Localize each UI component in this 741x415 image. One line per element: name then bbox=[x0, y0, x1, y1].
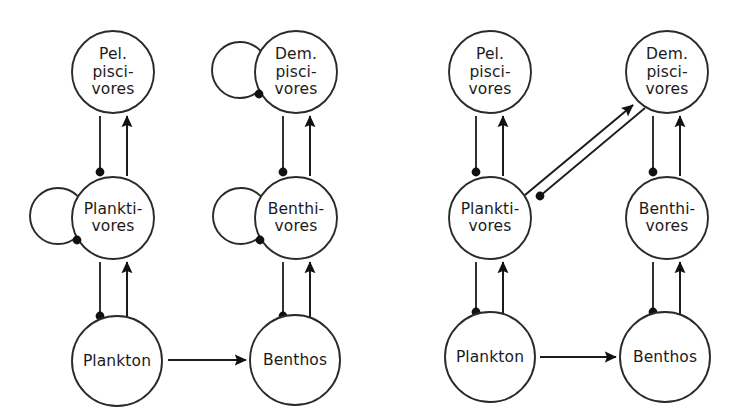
edge-control-dot bbox=[279, 168, 288, 177]
node-label-pelagic-piscivores: vores bbox=[469, 80, 512, 98]
edge-control-dot bbox=[472, 168, 481, 177]
node-label-plankton: Plankton bbox=[456, 348, 524, 366]
edge-dem-piscivores-to-benthivores-control bbox=[279, 116, 288, 176]
node-label-benthivores: Benthi- bbox=[639, 200, 696, 218]
node-planktivores[interactable]: Plankti-vores bbox=[72, 177, 154, 259]
edge-control-line bbox=[540, 108, 645, 196]
edge-pel-piscivores-to-planktivores-control bbox=[472, 116, 481, 176]
node-label-planktivores: Plankti- bbox=[461, 200, 520, 218]
node-label-benthivores: vores bbox=[646, 217, 689, 235]
node-pelagic-piscivores[interactable]: Pel.pisci-vores bbox=[72, 31, 154, 113]
node-label-demersal-piscivores: pisci- bbox=[646, 63, 687, 81]
node-label-pelagic-piscivores: Pel. bbox=[476, 45, 504, 63]
node-label-demersal-piscivores: vores bbox=[275, 80, 318, 98]
node-label-plankton: Plankton bbox=[83, 352, 151, 370]
node-benthivores[interactable]: Benthi-vores bbox=[626, 177, 708, 259]
edge-benthivores-to-benthos-control bbox=[279, 262, 288, 320]
node-demersal-piscivores[interactable]: Dem.pisci-vores bbox=[255, 31, 337, 113]
self-loop-dot-benthivores bbox=[256, 236, 265, 245]
panel-b: Pel.pisci-voresDem.pisci-voresPlankti-vo… bbox=[445, 31, 710, 402]
node-label-pelagic-piscivores: pisci- bbox=[92, 63, 133, 81]
edge-control-dot bbox=[649, 168, 658, 177]
node-label-pelagic-piscivores: pisci- bbox=[469, 63, 510, 81]
node-label-benthivores: vores bbox=[275, 217, 318, 235]
node-label-demersal-piscivores: Dem. bbox=[275, 45, 317, 63]
node-plankton[interactable]: Plankton bbox=[445, 312, 535, 402]
node-label-benthivores: Benthi- bbox=[268, 200, 325, 218]
node-label-demersal-piscivores: pisci- bbox=[275, 63, 316, 81]
node-label-planktivores: vores bbox=[92, 217, 135, 235]
node-benthivores[interactable]: Benthi-vores bbox=[255, 177, 337, 259]
node-label-demersal-piscivores: vores bbox=[646, 80, 689, 98]
node-label-benthos: Benthos bbox=[263, 351, 327, 369]
nodes-group: Pel.pisci-voresDem.pisci-voresPlankti-vo… bbox=[445, 31, 710, 402]
edge-control-dot bbox=[96, 168, 105, 177]
figure-root: Pel.pisci-voresDem.pisci-voresPlankti-vo… bbox=[0, 0, 741, 415]
edge-planktivores-to-plankton-control bbox=[472, 262, 481, 316]
edge-benthivores-to-benthos-control bbox=[649, 262, 658, 316]
edge-arrow-line bbox=[525, 105, 633, 195]
node-benthos[interactable]: Benthos bbox=[620, 312, 710, 402]
panel-a: Pel.pisci-voresDem.pisci-voresPlankti-vo… bbox=[30, 31, 340, 406]
nodes-group: Pel.pisci-voresDem.pisci-voresPlankti-vo… bbox=[72, 31, 340, 406]
food-web-diagram: Pel.pisci-voresDem.pisci-voresPlankti-vo… bbox=[0, 0, 741, 415]
node-demersal-piscivores[interactable]: Dem.pisci-vores bbox=[626, 31, 708, 113]
edge-pel-piscivores-to-planktivores-control bbox=[96, 116, 105, 176]
edge-planktivores-to-plankton-control bbox=[96, 262, 105, 320]
node-label-pelagic-piscivores: vores bbox=[92, 80, 135, 98]
node-label-pelagic-piscivores: Pel. bbox=[99, 45, 127, 63]
self-loop-dot-demersal-piscivores bbox=[255, 90, 264, 99]
node-plankton[interactable]: Plankton bbox=[72, 316, 162, 406]
edge-planktivores-to-dem-piscivores-flow bbox=[525, 105, 633, 195]
node-label-benthos: Benthos bbox=[633, 348, 697, 366]
node-label-demersal-piscivores: Dem. bbox=[646, 45, 688, 63]
edge-dem-piscivores-to-benthivores-control bbox=[649, 116, 658, 176]
node-pelagic-piscivores[interactable]: Pel.pisci-vores bbox=[449, 31, 531, 113]
edge-dem-piscivores-to-planktivores-control bbox=[536, 108, 645, 200]
node-label-planktivores: Plankti- bbox=[84, 200, 143, 218]
edge-control-dot bbox=[536, 192, 545, 201]
node-benthos[interactable]: Benthos bbox=[250, 315, 340, 405]
node-label-planktivores: vores bbox=[469, 217, 512, 235]
node-planktivores[interactable]: Plankti-vores bbox=[449, 177, 531, 259]
self-loop-dot-planktivores bbox=[73, 236, 82, 245]
